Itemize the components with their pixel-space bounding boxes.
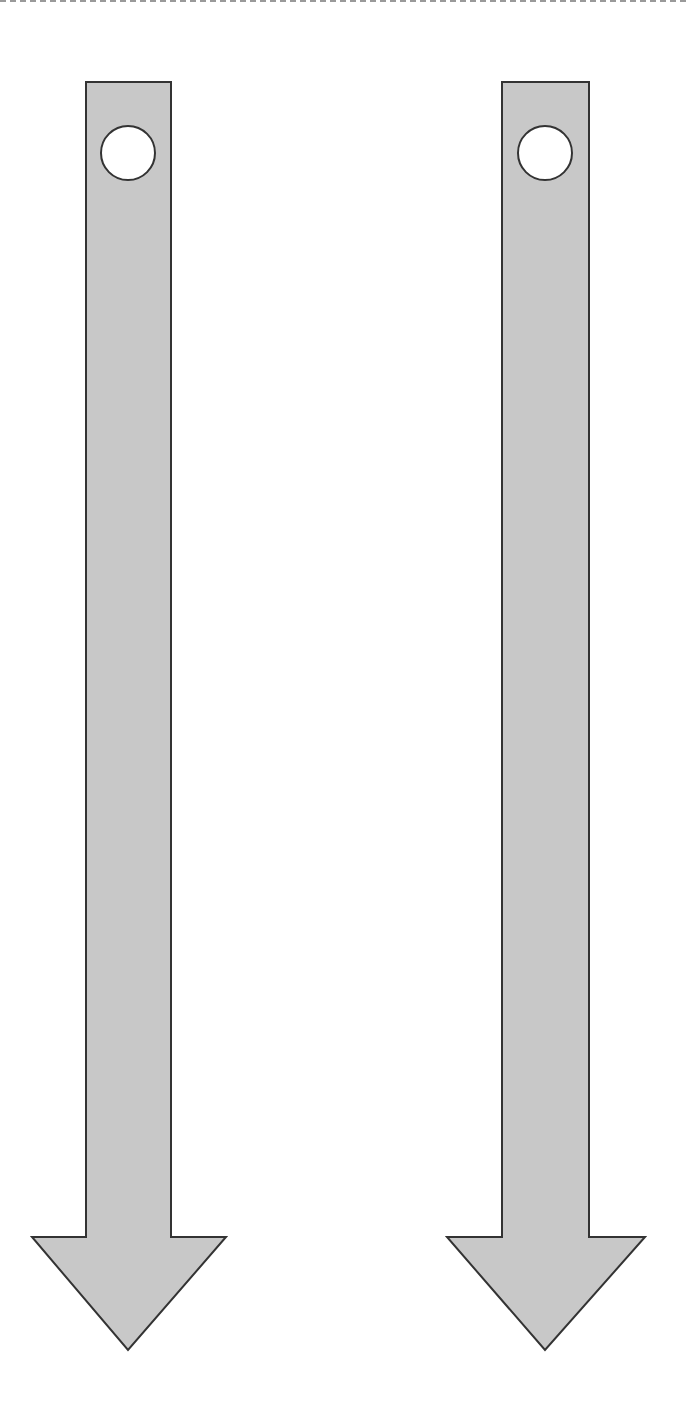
left-arrow [32,82,226,1350]
down-arrow-shape [32,82,226,1350]
down-arrow-shape [447,82,645,1350]
circle-marker-icon [518,126,572,180]
circle-marker-icon [101,126,155,180]
right-arrow [447,82,645,1350]
arrow-diagram [0,0,686,1413]
